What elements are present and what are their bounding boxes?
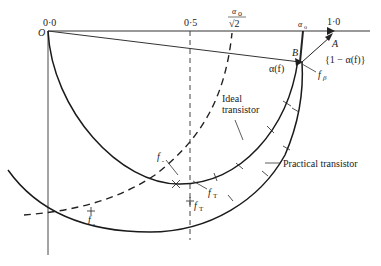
ideal-leader: [235, 120, 243, 140]
alpha0-marker: [300, 31, 303, 62]
point-B: B: [292, 47, 298, 58]
f-T-ideal-sub: T: [213, 192, 218, 200]
practical-transistor-label: Practical transistor: [283, 158, 358, 169]
alpha-locus-diagram: 0·0 O 0·5 α o √2 α o 1·0 A B α(f) {1 − α…: [0, 0, 381, 266]
f-alpha-practical-label: f: [88, 214, 92, 225]
point-A: A: [331, 38, 339, 49]
alpha0-sub: o: [304, 24, 307, 30]
f-T-practical-label: f: [194, 200, 198, 211]
f-alpha-ideal-label: f: [157, 151, 161, 162]
ideal-transistor-label-2: transistor: [222, 104, 260, 115]
ideal-transistor-label-1: Ideal: [222, 93, 242, 104]
origin-point-label: O: [38, 27, 45, 38]
ideal-transistor-curve: [48, 31, 298, 184]
one-minus-alpha-label: {1 − α(f)}: [325, 54, 365, 66]
alpha-vector-line: [48, 31, 300, 62]
alpha-f-label: α(f): [269, 63, 284, 75]
intersection-markers: [87, 180, 194, 215]
alpha-root2-denominator: √2: [229, 18, 240, 29]
alpha-root2-numerator: α: [232, 7, 237, 16]
f-alpha-ideal-sub: ₐ: [162, 156, 164, 164]
f-alpha-practical-sub: ₐ: [93, 219, 95, 227]
f-alpha-leader: [166, 160, 178, 175]
f-beta-leader: [302, 64, 316, 72]
f-T-practical-sub: T: [199, 205, 204, 213]
alpha-root2-num-sub: o: [238, 9, 242, 18]
alpha-root2-dashed-arc: [24, 33, 232, 215]
f-T-ideal-label: f: [208, 187, 212, 198]
one-label: 1·0: [327, 16, 340, 27]
practical-ticks: [228, 108, 299, 201]
f-beta-sub: β: [322, 74, 327, 82]
f-beta-label: f: [318, 69, 322, 80]
arrow-head-one: [327, 27, 335, 35]
half-label: 0·5: [184, 17, 197, 28]
alpha0-label: α: [298, 20, 303, 29]
